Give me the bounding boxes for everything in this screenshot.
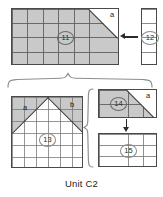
piece-14-number: 14: [110, 97, 127, 111]
arrow-14-to-15-head: [123, 127, 129, 132]
figure-canvas: a 11 12 a b 13 a 14 15 Unit: [0, 0, 163, 197]
piece-15-number: 15: [120, 144, 137, 158]
label-a-piece-14: a: [146, 92, 150, 100]
figure-caption: Unit C2: [0, 178, 163, 189]
